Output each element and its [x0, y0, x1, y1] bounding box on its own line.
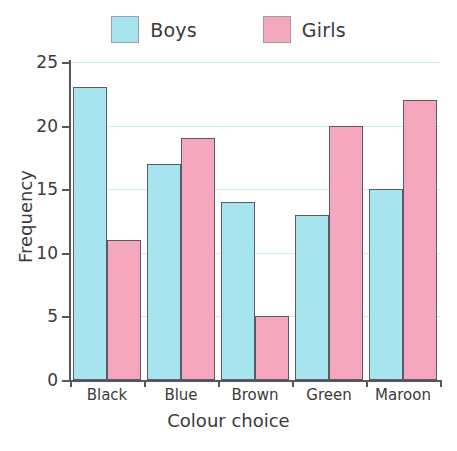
bar-black-boys [73, 87, 107, 380]
bar-maroon-girls [403, 100, 437, 380]
bar-blue-girls [181, 138, 215, 380]
y-tick-mark [62, 126, 69, 128]
y-tick-mark [62, 189, 69, 191]
x-tick-mark [440, 380, 442, 387]
y-tick-label: 0 [18, 370, 58, 390]
x-axis-line [69, 380, 441, 382]
x-tick-label-maroon: Maroon [375, 386, 431, 404]
chart-bars [70, 62, 440, 380]
bar-brown-girls [255, 316, 289, 380]
y-tick-mark [62, 62, 69, 64]
y-tick-mark [62, 380, 69, 382]
x-tick-label-brown: Brown [231, 386, 278, 404]
bar-chart: Boys Girls 0510152025 BlackBlueBrownGree… [0, 0, 457, 451]
x-tick-label-black: Black [87, 386, 128, 404]
y-tick-label: 25 [18, 52, 58, 72]
x-tick-label-blue: Blue [164, 386, 197, 404]
y-tick-mark [62, 253, 69, 255]
bar-maroon-boys [369, 189, 403, 380]
bar-green-girls [329, 126, 363, 380]
x-tick-mark [144, 380, 146, 387]
x-tick-mark [292, 380, 294, 387]
y-tick-mark [62, 316, 69, 318]
plot-wrapper: 0510152025 BlackBlueBrownGreenMaroon Col… [0, 0, 457, 451]
bar-black-girls [107, 240, 141, 380]
bar-green-boys [295, 215, 329, 380]
bar-blue-boys [147, 164, 181, 380]
x-tick-mark [366, 380, 368, 387]
x-axis-title: Colour choice [0, 410, 457, 431]
x-tick-mark [218, 380, 220, 387]
y-axis-title: Frequency [15, 117, 36, 317]
bar-brown-boys [221, 202, 255, 380]
x-tick-mark [70, 380, 72, 387]
x-tick-label-green: Green [306, 386, 351, 404]
